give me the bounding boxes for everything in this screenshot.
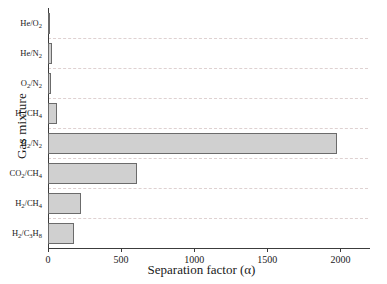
bar: [48, 13, 50, 34]
y-axis-tick-label: H2/CH4: [15, 198, 42, 208]
y-axis-tick-label: He/N2: [20, 48, 42, 58]
plot-area: He/O2He/N2O2/N2H2/CH4H2/N2CO2/CH4H2/CH4H…: [48, 8, 355, 248]
bar-row: H2/C3H8: [48, 218, 355, 248]
x-axis-tick: [194, 248, 195, 252]
y-axis-tick-label: H2/C3H8: [12, 228, 42, 238]
y-axis-tick-label: He/O2: [20, 18, 42, 28]
bar: [48, 133, 337, 154]
x-axis-tick: [267, 248, 268, 252]
y-axis-tick-label: O2/N2: [21, 78, 42, 88]
x-axis-line: [48, 248, 370, 249]
x-axis-title: Separation factor (α): [48, 262, 355, 278]
bar: [48, 163, 137, 184]
y-axis-tick-label: CO2/CH4: [10, 168, 42, 178]
bar-row: H2/N2: [48, 128, 355, 158]
x-axis-tick: [340, 248, 341, 252]
x-axis-tick: [121, 248, 122, 252]
y-axis-tick-label: H2/CH4: [15, 108, 42, 118]
y-axis-tick-label: H2/N2: [21, 138, 42, 148]
x-axis-tick: [48, 248, 49, 252]
bar: [48, 103, 57, 124]
bar-row: H2/CH4: [48, 188, 355, 218]
bar-row: He/O2: [48, 8, 355, 38]
bar: [48, 73, 51, 94]
bar-row: H2/CH4: [48, 98, 355, 128]
bar: [48, 43, 52, 64]
bar: [48, 193, 81, 214]
chart-figure: Gas mixture He/O2He/N2O2/N2H2/CH4H2/N2CO…: [0, 0, 387, 284]
bar-row: O2/N2: [48, 68, 355, 98]
y-axis-title: Gas mixture: [14, 46, 30, 206]
bar-row: He/N2: [48, 38, 355, 68]
bar: [48, 223, 74, 244]
bar-row: CO2/CH4: [48, 158, 355, 188]
